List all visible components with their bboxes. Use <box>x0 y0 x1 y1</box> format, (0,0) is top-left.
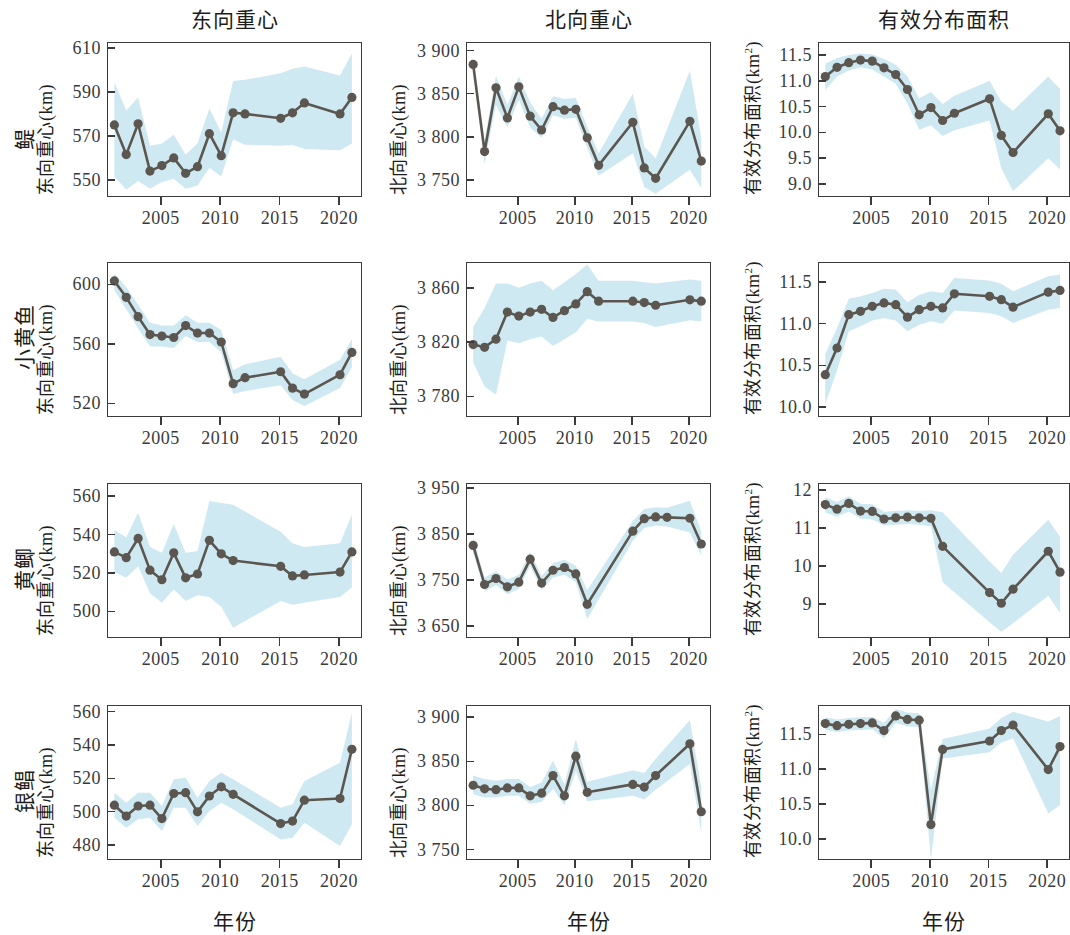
y-tick-label: 10.0 <box>779 397 813 418</box>
x-tick-label: 2005 <box>499 871 537 892</box>
x-tick-mark <box>574 638 576 646</box>
data-point <box>856 506 865 515</box>
y-tick-mark <box>107 711 115 713</box>
data-point <box>169 333 178 342</box>
x-tick-label: 2015 <box>613 871 651 892</box>
data-point <box>548 566 557 575</box>
x-tick-label: 2005 <box>142 649 180 670</box>
data-point <box>526 791 535 800</box>
y-tick-mark <box>466 396 474 398</box>
y-tick-mark <box>466 579 474 581</box>
data-point <box>560 106 569 115</box>
x-axis-title: 年份 <box>213 905 257 935</box>
data-point <box>903 512 912 521</box>
x-tick-mark <box>688 638 690 646</box>
y-tick-label: 12 <box>793 480 812 501</box>
data-point <box>628 118 637 127</box>
data-point <box>938 542 947 551</box>
x-tick-mark <box>517 860 519 868</box>
data-point <box>868 57 877 66</box>
x-tick-label: 2010 <box>201 208 239 229</box>
y-tick-mark <box>818 323 826 325</box>
x-tick-mark <box>338 197 340 205</box>
data-point <box>1055 286 1064 295</box>
y-tick-mark <box>818 527 826 529</box>
y-tick-label: 9.5 <box>788 148 812 169</box>
data-point <box>844 58 853 67</box>
x-tick-mark <box>279 860 281 868</box>
x-tick-label: 2005 <box>142 208 180 229</box>
confidence-band <box>473 58 701 194</box>
data-point <box>134 312 143 321</box>
y-tick-label: 540 <box>73 524 102 545</box>
x-tick-mark <box>219 197 221 205</box>
y-tick-mark <box>107 572 115 574</box>
column-title-3: 有效分布面积 <box>818 3 1070 33</box>
y-tick-label: 500 <box>73 801 102 822</box>
x-tick-label: 2015 <box>970 649 1008 670</box>
y-axis-title-text: 有效分布面积(km <box>743 274 763 416</box>
data-point <box>134 119 143 128</box>
y-axis-title: 北向重心(km) <box>384 304 410 415</box>
x-tick-mark <box>279 417 281 425</box>
x-tick-label: 2015 <box>261 208 299 229</box>
data-point <box>240 373 249 382</box>
data-point <box>335 794 344 803</box>
data-point <box>229 379 238 388</box>
data-point <box>868 507 877 516</box>
x-tick-mark <box>338 860 340 868</box>
y-axis-title-close: ) <box>743 704 763 711</box>
data-point <box>347 348 356 357</box>
x-tick-label: 2015 <box>613 428 651 449</box>
plot-area-r3c1 <box>107 483 362 638</box>
data-point <box>169 153 178 162</box>
data-point <box>122 293 131 302</box>
y-tick-mark <box>818 768 826 770</box>
y-tick-mark <box>107 611 115 613</box>
y-tick-label: 560 <box>73 333 102 354</box>
x-tick-mark <box>688 197 690 205</box>
data-point <box>537 125 546 134</box>
data-point <box>879 726 888 735</box>
y-tick-mark <box>466 136 474 138</box>
data-point <box>651 771 660 780</box>
y-tick-label: 540 <box>73 734 102 755</box>
x-tick-mark <box>870 197 872 205</box>
y-tick-mark <box>818 106 826 108</box>
y-tick-label: 600 <box>73 274 102 295</box>
data-point <box>879 63 888 72</box>
y-tick-label: 3 800 <box>417 126 460 147</box>
y-tick-label: 520 <box>73 393 102 414</box>
data-point <box>903 715 912 724</box>
data-point <box>110 547 119 556</box>
y-tick-label: 3 850 <box>417 751 460 772</box>
data-point <box>276 367 285 376</box>
data-point <box>491 785 500 794</box>
data-point <box>335 567 344 576</box>
x-tick-mark <box>338 638 340 646</box>
y-tick-label: 3 800 <box>417 795 460 816</box>
plot-area-r1c3 <box>818 42 1070 197</box>
x-tick-label: 2020 <box>670 428 708 449</box>
confidence-band <box>825 275 1060 404</box>
x-tick-mark <box>988 638 990 646</box>
y-tick-mark <box>818 183 826 185</box>
y-tick-mark <box>818 54 826 56</box>
confidence-band <box>114 713 352 846</box>
data-point <box>571 299 580 308</box>
x-tick-mark <box>517 417 519 425</box>
y-tick-mark <box>818 489 826 491</box>
data-point <box>856 307 865 316</box>
y-tick-mark <box>107 744 115 746</box>
x-tick-mark <box>517 197 519 205</box>
x-tick-mark <box>574 417 576 425</box>
series-plot <box>108 484 362 638</box>
y-tick-mark <box>818 157 826 159</box>
y-tick-label: 3 860 <box>417 277 460 298</box>
data-point <box>560 563 569 572</box>
data-point <box>560 791 569 800</box>
data-point <box>288 816 297 825</box>
y-axis-title-text: 有效分布面积(km <box>743 54 763 196</box>
data-point <box>844 499 853 508</box>
